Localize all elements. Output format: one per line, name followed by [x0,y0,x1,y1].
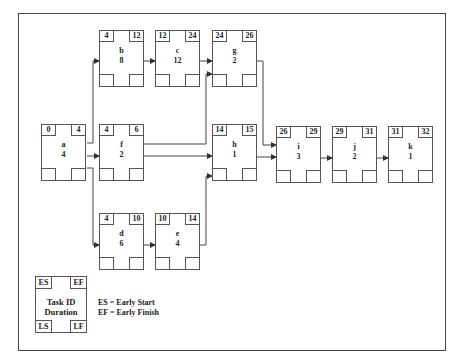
lf-cell [242,168,257,181]
ef-cell: 12 [129,30,144,42]
es-cell: 0 [41,124,56,136]
node-c: 12 24 c 12 [155,30,200,87]
es-cell: 10 [155,213,170,225]
lf-cell [185,74,200,87]
legend-es: ES [35,276,52,289]
ls-cell [99,74,114,87]
task-id: d [100,229,143,239]
ef-cell: 26 [242,30,257,42]
es-cell: 4 [99,213,114,225]
ls-cell [99,257,114,270]
legend-ls: LS [35,320,52,333]
es-cell: 24 [212,30,227,42]
legend-ef: EF [70,276,87,289]
lf-cell [129,74,144,87]
task-id: g [213,46,256,56]
ls-cell [155,257,170,270]
lf-cell [418,170,433,183]
ls-cell [212,168,227,181]
task-duration: 8 [100,56,143,66]
edge-e-h [200,176,212,245]
task-duration: 2 [100,150,143,160]
node-f: 4 6 f 2 [99,124,144,181]
task-duration: 1 [213,150,256,160]
task-id: b [100,46,143,56]
es-cell: 4 [99,124,114,136]
task-duration: 12 [156,56,199,66]
ef-cell: 32 [418,126,433,138]
ls-cell [212,74,227,87]
ef-cell: 10 [129,213,144,225]
ef-cell: 31 [362,126,377,138]
task-id: c [156,46,199,56]
legend-key-es: ES = Early Start [98,298,155,307]
lf-cell [242,74,257,87]
task-duration: 6 [100,239,143,249]
task-duration: 2 [213,56,256,66]
edge-g-i [257,61,276,145]
task-id: k [389,142,432,152]
node-d: 4 10 d 6 [99,213,144,270]
task-duration: 4 [156,239,199,249]
node-a: 0 4 a 4 [41,124,86,181]
legend-lf: LF [70,320,87,333]
ls-cell [155,74,170,87]
node-k: 31 32 k 1 [388,126,433,183]
ls-cell [41,168,56,181]
task-duration: 4 [42,150,85,160]
ls-cell [276,170,291,183]
task-id: h [213,140,256,150]
es-cell: 31 [388,126,403,138]
edge-a-d [87,168,99,245]
legend-key-ef: EF = Early Finish [98,308,159,317]
es-cell: 4 [99,30,114,42]
ef-cell: 6 [129,124,144,136]
legend-node: ES EF Task ID Duration LS LF [35,276,87,333]
es-cell: 26 [276,126,291,138]
task-id: f [100,140,143,150]
ls-cell [388,170,403,183]
node-b: 4 12 b 8 [99,30,144,87]
edge-a-b [87,61,99,143]
ef-cell: 29 [306,126,321,138]
legend-duration: Duration [36,307,86,317]
legend-task-id: Task ID [36,297,86,307]
lf-cell [306,170,321,183]
task-duration: 1 [389,152,432,162]
node-e: 10 14 e 4 [155,213,200,270]
es-cell: 12 [155,30,170,42]
ef-cell: 24 [185,30,200,42]
node-j: 29 31 j 2 [332,126,377,183]
task-id: e [156,229,199,239]
lf-cell [185,257,200,270]
ef-cell: 4 [71,124,86,136]
lf-cell [362,170,377,183]
task-id: i [277,142,320,152]
task-id: a [42,140,85,150]
ls-cell [99,168,114,181]
task-id: j [333,142,376,152]
lf-cell [129,257,144,270]
lf-cell [129,168,144,181]
es-cell: 14 [212,124,227,136]
es-cell: 29 [332,126,347,138]
task-duration: 3 [277,152,320,162]
ef-cell: 15 [242,124,257,136]
node-h: 14 15 h 1 [212,124,257,181]
ls-cell [332,170,347,183]
node-i: 26 29 i 3 [276,126,321,183]
ef-cell: 14 [185,213,200,225]
node-g: 24 26 g 2 [212,30,257,87]
task-duration: 2 [333,152,376,162]
lf-cell [71,168,86,181]
